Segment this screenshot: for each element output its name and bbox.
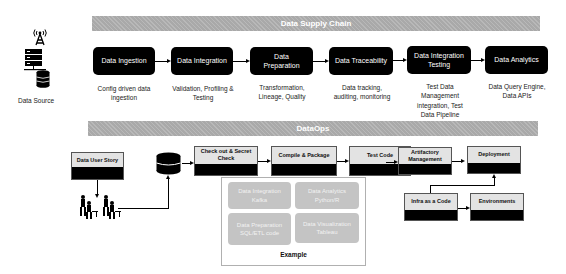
stage-data-preparation[interactable]: Data Preparation <box>250 47 313 75</box>
arrow-infra-deployment-horizontal <box>430 185 494 186</box>
example-data-analytics: Data Analytics Python/R <box>295 182 359 209</box>
stage-data-integration-testing[interactable]: Data Integration Testing <box>407 46 471 74</box>
arrow-integration-preparation <box>233 61 247 62</box>
arrow-team-repo-vertical <box>168 178 169 209</box>
repository-database-icon <box>156 152 181 175</box>
data-user-story[interactable]: Data User Story <box>71 152 124 180</box>
desc-data-analytics: Data Query Engine, Data APIs <box>484 82 550 101</box>
stage-data-integration[interactable]: Data Integration <box>171 47 233 75</box>
dataops-header: DataOps <box>88 121 538 136</box>
example-panel: Data Integration Kafka Data Analytics Py… <box>221 177 366 266</box>
example-data-preparation: Data Preparation SQL/ETL code <box>228 213 291 245</box>
team-members-icon <box>102 194 124 220</box>
arrowhead-icon <box>246 59 250 63</box>
arrow-team-repo <box>118 208 168 209</box>
arrowhead-icon <box>461 159 465 163</box>
desc-data-integration-testing: Test Data Management integration, Test D… <box>410 82 470 120</box>
arrowhead-icon <box>167 59 171 63</box>
desc-data-ingestion: Config driven data ingestion <box>90 84 158 103</box>
server-rack-icon <box>24 49 46 71</box>
arrowhead-icon <box>325 59 329 63</box>
arrowhead-icon <box>403 58 407 62</box>
infra-as-code[interactable]: Infra as a Code <box>404 193 458 221</box>
antenna-tower-icon <box>32 28 48 46</box>
arrow-story-team <box>97 180 98 194</box>
step-compile-package[interactable]: Compile & Package <box>271 146 337 176</box>
arrow-infra-deployment-vertical <box>494 178 495 186</box>
example-data-visualization: Data Visualization Tableau <box>295 213 359 243</box>
example-title: Example <box>222 251 365 258</box>
data-source-label: Data Source <box>18 97 54 104</box>
arrowhead-icon <box>492 174 496 178</box>
environments[interactable]: Environments <box>470 193 524 221</box>
stage-data-traceability[interactable]: Data Traceability <box>329 47 393 75</box>
arrowhead-icon <box>481 58 485 62</box>
database-icon <box>36 70 50 88</box>
desc-data-traceability: Data tracking, auditing, monitoring <box>329 83 395 102</box>
step-artifactory-management[interactable]: Artifactory Management <box>398 147 452 175</box>
step-checkout-secret-check[interactable]: Check out & Secret Check <box>194 146 258 176</box>
supply-chain-title: Data Supply Chain <box>281 19 352 28</box>
desc-data-integration: Validation, Profiling & Testing <box>168 84 238 103</box>
stage-data-analytics[interactable]: Data Analytics <box>485 46 548 74</box>
arrowhead-icon <box>166 175 170 179</box>
example-data-integration: Data Integration Kafka <box>228 182 291 209</box>
dataops-title: DataOps <box>297 124 330 133</box>
supply-chain-header: Data Supply Chain <box>92 16 540 31</box>
step-deployment[interactable]: Deployment <box>467 146 521 174</box>
stage-data-ingestion[interactable]: Data Ingestion <box>93 47 155 75</box>
team-members-icon <box>79 194 101 220</box>
desc-data-preparation: Transformation, Lineage, Quality <box>250 83 314 102</box>
data-source <box>20 28 70 108</box>
